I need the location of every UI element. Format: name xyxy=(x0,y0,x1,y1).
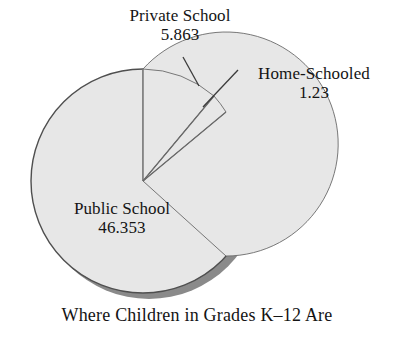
slice-label-private-school-value: 5.863 xyxy=(96,25,264,44)
slice-label-home-schooled-value: 1.23 xyxy=(236,83,392,102)
slice-label-home-schooled: Home-Schooled 1.23 xyxy=(236,64,392,102)
chart-caption: Where Children in Grades K–12 Are xyxy=(0,305,394,326)
slice-label-private-school: Private School 5.863 xyxy=(96,6,264,44)
slice-label-public-school-name: Public School xyxy=(42,199,202,218)
slice-label-private-school-name: Private School xyxy=(96,6,264,25)
slice-label-home-schooled-name: Home-Schooled xyxy=(236,64,392,83)
pie-chart-graphic xyxy=(0,0,394,338)
pie-chart-figure: Private School 5.863 Home-Schooled 1.23 … xyxy=(0,0,394,338)
slice-label-public-school-value: 46.353 xyxy=(42,218,202,237)
slice-label-public-school: Public School 46.353 xyxy=(42,199,202,237)
